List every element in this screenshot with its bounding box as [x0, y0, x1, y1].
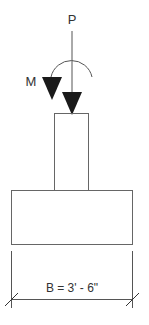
moment-arrow-icon: [42, 77, 62, 100]
axial-load-label: P: [68, 12, 77, 27]
axial-load-arrow-icon: [62, 92, 82, 115]
footing-diagram: P M B = 3' - 6": [0, 0, 149, 325]
footing: [12, 191, 133, 245]
column: [55, 114, 89, 191]
moment-label: M: [26, 74, 37, 89]
width-dimension-label: B = 3' - 6": [46, 281, 98, 295]
